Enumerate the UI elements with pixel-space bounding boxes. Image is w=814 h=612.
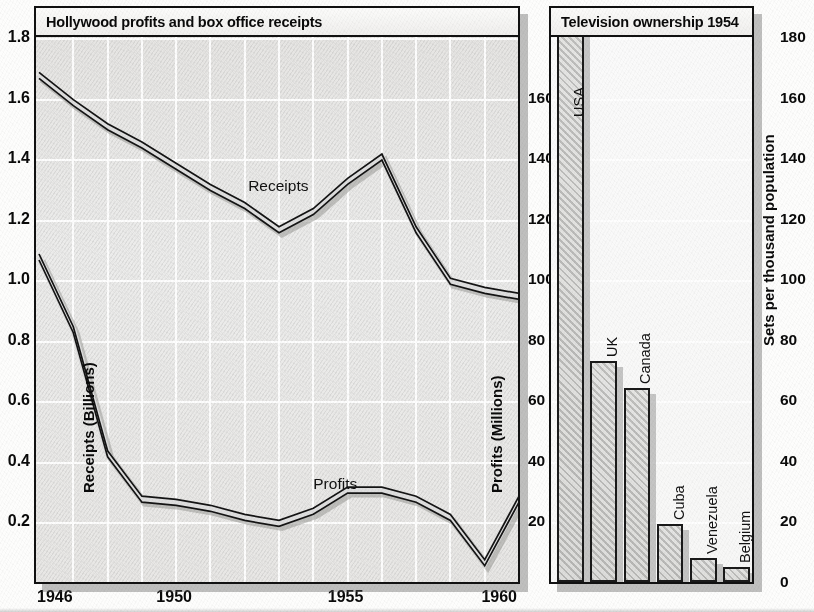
right-chart-panel: Television ownership 1954 USAUKCanadaCub… bbox=[549, 6, 754, 584]
y-tick-label: 80 bbox=[780, 331, 797, 349]
bar-label-belgium: Belgium bbox=[737, 510, 752, 562]
profits-line bbox=[39, 254, 518, 567]
left-line-series bbox=[36, 37, 518, 582]
left-chart-panel: Hollywood profits and box office receipt… bbox=[34, 6, 520, 584]
receipts-series-label: Receipts bbox=[248, 177, 308, 195]
right-chart-title: Television ownership 1954 bbox=[551, 8, 752, 37]
bar-uk[interactable] bbox=[590, 361, 617, 582]
y2-tick-label: 60 bbox=[528, 391, 545, 409]
y-tick-label: 1.4 bbox=[0, 149, 30, 167]
y-tick-label: 60 bbox=[780, 391, 797, 409]
y-tick-label: 1.8 bbox=[0, 28, 30, 46]
y-tick-label: 0 bbox=[780, 573, 789, 591]
y-tick-label: 40 bbox=[780, 452, 797, 470]
bar-label-venezuela: Venezuela bbox=[704, 486, 720, 554]
y-tick-label: 0.4 bbox=[0, 452, 30, 470]
bar-label-canada: Canada bbox=[637, 333, 653, 384]
left-y2-axis-label: Profits (Millions) bbox=[488, 376, 505, 494]
y-tick-label: 0.2 bbox=[0, 512, 30, 530]
y-tick-label: 0.6 bbox=[0, 391, 30, 409]
y2-tick-label: 20 bbox=[528, 512, 545, 530]
profits-series-label: Profits bbox=[313, 475, 357, 493]
y-tick-label: 100 bbox=[780, 270, 806, 288]
left-chart-title-text: Hollywood profits and box office receipt… bbox=[36, 14, 322, 30]
right-chart-title-text: Television ownership 1954 bbox=[551, 14, 739, 30]
left-y-axis-label: Receipts (Billions) bbox=[80, 362, 97, 493]
bar-usa[interactable] bbox=[557, 37, 584, 582]
y-tick-label: 160 bbox=[780, 89, 806, 107]
bar-label-uk: UK bbox=[604, 337, 620, 357]
bar-cuba[interactable] bbox=[657, 524, 684, 582]
y-tick-label: 20 bbox=[780, 512, 797, 530]
y2-tick-label: 40 bbox=[528, 452, 545, 470]
y-tick-label: 1.6 bbox=[0, 89, 30, 107]
infographic-page: Hollywood profits and box office receipt… bbox=[0, 0, 814, 612]
y-tick-label: 1.0 bbox=[0, 270, 30, 288]
right-plot-area: USAUKCanadaCubaVenezuelaBelgium bbox=[551, 37, 752, 582]
bar-belgium[interactable] bbox=[723, 567, 750, 582]
left-plot-area: Receipts Profits Receipts (Billions) Pro… bbox=[36, 37, 518, 582]
bar-label-cuba: Cuba bbox=[671, 486, 687, 521]
bar-canada[interactable] bbox=[624, 388, 651, 582]
y-tick-label: 120 bbox=[780, 210, 806, 228]
y-tick-label: 1.2 bbox=[0, 210, 30, 228]
left-chart-title: Hollywood profits and box office receipt… bbox=[36, 8, 518, 37]
y-tick-label: 140 bbox=[780, 149, 806, 167]
page-edge-shadow bbox=[0, 608, 814, 612]
y-tick-label: 180 bbox=[780, 28, 806, 46]
y-tick-label: 0.8 bbox=[0, 331, 30, 349]
y2-tick-label: 80 bbox=[528, 331, 545, 349]
bar-venezuela[interactable] bbox=[690, 558, 717, 582]
right-y-axis-label: Sets per thousand population bbox=[760, 134, 777, 346]
bar-label-usa: USA bbox=[571, 87, 587, 117]
